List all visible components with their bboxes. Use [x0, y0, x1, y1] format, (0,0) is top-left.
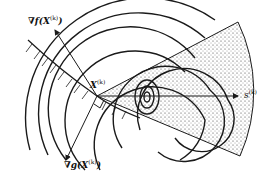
grad-f-label: ∇f(X(k)): [28, 14, 62, 26]
grad-g-arrow: [66, 96, 97, 160]
point-label: X(k): [90, 78, 105, 90]
grad-g-label: ∇g(X(k)): [64, 158, 101, 170]
diagram-svg: [0, 0, 272, 184]
diagram-canvas: ∇f(X(k)) X(k) s(k) ∇g(X(k)): [0, 0, 272, 184]
direction-label: s(k): [244, 88, 257, 100]
right-angle-mark: [94, 100, 104, 108]
